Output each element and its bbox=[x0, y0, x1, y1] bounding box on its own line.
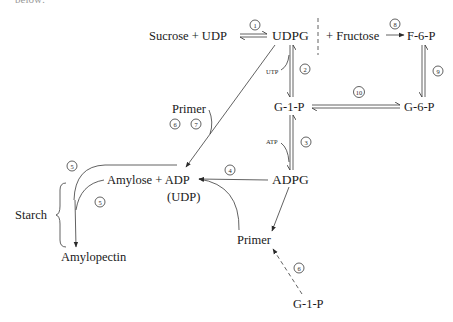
edge-g6p-g1p bbox=[312, 105, 400, 108]
caption-fragment: below: bbox=[15, 0, 45, 5]
step-10-label: 10 bbox=[356, 89, 363, 96]
node-g6p: G-6-P bbox=[404, 100, 435, 114]
edge-adpg-primer bbox=[272, 187, 289, 231]
edge-sucrose-udpg bbox=[240, 34, 267, 37]
starch-biosynthesis-diagram: below: Sucrose + UDP UDPG + Fructose F-6… bbox=[0, 0, 453, 322]
edge-adpg-amylose bbox=[199, 179, 268, 180]
edge-udpg-g1p bbox=[290, 45, 293, 97]
step-8-label: 8 bbox=[393, 21, 396, 28]
starch-brace bbox=[56, 183, 66, 247]
node-primer-top: Primer bbox=[172, 102, 207, 116]
step-2-label: 2 bbox=[303, 66, 306, 73]
cofactor-utp: UTP bbox=[266, 68, 279, 75]
edge-g1p-primer-dashed bbox=[273, 249, 302, 294]
step-6a-label: 6 bbox=[173, 121, 177, 128]
node-adpg: ADPG bbox=[272, 172, 309, 187]
step-9-label: 9 bbox=[436, 68, 439, 75]
edge-primer-amylose bbox=[199, 179, 239, 230]
edge-to-amylopectin bbox=[75, 200, 76, 247]
node-fructose: + Fructose bbox=[326, 29, 380, 43]
node-amylopectin: Amylopectin bbox=[61, 250, 127, 264]
node-udpg: UDPG bbox=[272, 28, 309, 43]
edge-g1p-adpg bbox=[290, 115, 293, 170]
atp-curve bbox=[281, 143, 289, 162]
node-g1p: G-1-P bbox=[274, 100, 305, 114]
step-5b-label: 5 bbox=[98, 199, 101, 206]
edge-amylose-amylopectin-inner bbox=[76, 180, 104, 210]
primer-top-curve bbox=[209, 110, 212, 134]
step-7-label: 7 bbox=[194, 121, 198, 128]
cofactor-atp: ATP bbox=[266, 138, 278, 145]
node-sucrose-udp: Sucrose + UDP bbox=[149, 29, 227, 43]
node-starch: Starch bbox=[15, 208, 48, 222]
step-1-label: 1 bbox=[253, 22, 256, 29]
node-g1p-bottom: G-1-P bbox=[293, 297, 324, 311]
step-3-label: 3 bbox=[304, 139, 307, 146]
node-amylose-adp: Amylose + ADP bbox=[107, 173, 190, 187]
utp-curve bbox=[281, 55, 289, 70]
edge-f6p-g6p bbox=[422, 45, 425, 97]
step-5a-label: 5 bbox=[70, 163, 73, 170]
node-udp-paren: (UDP) bbox=[167, 190, 200, 204]
node-f6p: F-6-P bbox=[407, 29, 436, 43]
step-4-label: 4 bbox=[228, 167, 232, 174]
node-primer-bottom: Primer bbox=[237, 233, 272, 247]
step-6b-label: 6 bbox=[297, 265, 301, 272]
